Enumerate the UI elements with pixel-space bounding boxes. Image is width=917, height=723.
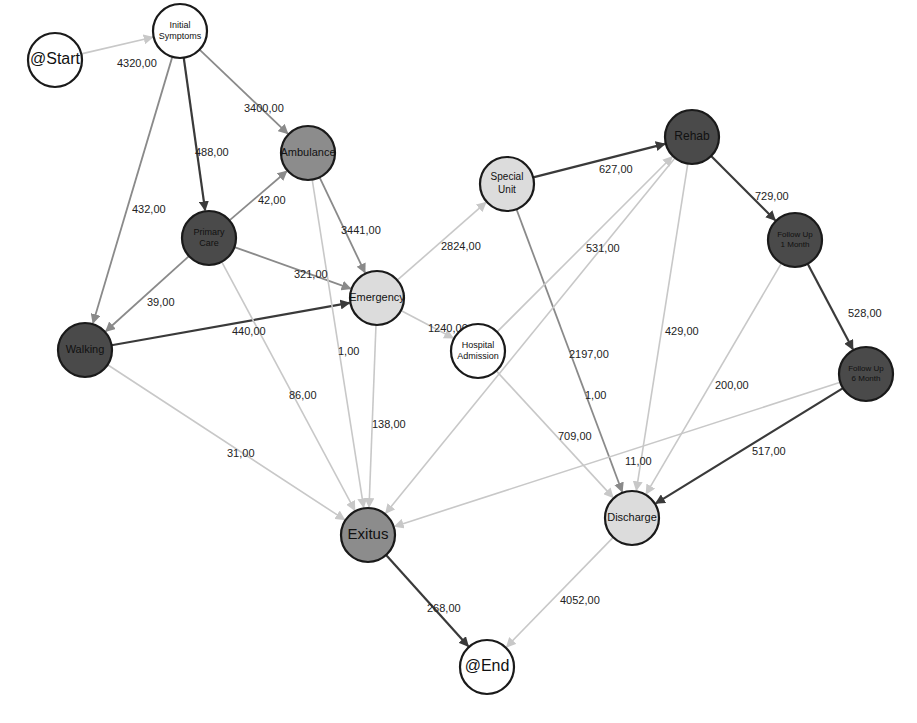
node-end[interactable]: @End: [460, 640, 514, 694]
edge-primary-to-emergency[interactable]: [234, 247, 350, 289]
node-discharge[interactable]: Discharge: [605, 491, 659, 545]
edge-primary-to-exitus[interactable]: [222, 262, 355, 511]
edge-followup6-to-discharge[interactable]: [656, 388, 843, 503]
node-label: Hospital: [462, 340, 495, 350]
edge-label: 321,00: [294, 268, 328, 280]
node-start[interactable]: @Start: [28, 33, 82, 87]
node-label: Follow Up: [777, 230, 813, 239]
edge-label: 11,00: [625, 455, 652, 467]
edge-label: 729,00: [755, 190, 789, 202]
edge-discharge-to-end[interactable]: [507, 537, 614, 647]
node-label: Admission: [457, 351, 499, 361]
edge-label: 31,00: [227, 447, 255, 459]
node-label: Follow Up: [848, 364, 884, 373]
edge-label: 39,00: [147, 296, 175, 308]
node-label: Walking: [66, 343, 105, 355]
edge-label: 4320,00: [117, 57, 157, 69]
edge-label: 432,00: [132, 203, 166, 215]
node-initial[interactable]: InitialSymptoms: [153, 4, 207, 58]
node-label: Primary: [194, 227, 225, 237]
edge-initial-to-primary[interactable]: [184, 58, 205, 211]
edge-label: 517,00: [752, 445, 786, 457]
edge-label: 42,00: [258, 194, 286, 206]
node-label: @End: [465, 657, 510, 674]
node-label: Unit: [498, 184, 516, 195]
node-special[interactable]: SpecialUnit: [480, 157, 534, 211]
edge-label: 531,00: [586, 242, 620, 254]
node-label: @Start: [30, 50, 81, 67]
edge-walking-to-exitus[interactable]: [108, 365, 345, 520]
edge-label: 709,00: [558, 430, 592, 442]
node-walking[interactable]: Walking: [58, 323, 112, 377]
node-primary[interactable]: PrimaryCare: [182, 211, 236, 265]
node-exitus[interactable]: Exitus: [341, 508, 395, 562]
node-followup6[interactable]: Follow Up6 Month: [839, 347, 893, 401]
edge-label: 440,00: [232, 325, 266, 337]
edge-exitus-to-end[interactable]: [386, 555, 468, 646]
edge-start-to-initial[interactable]: [81, 37, 152, 54]
node-label: Ambulance: [280, 146, 335, 158]
node-label: Care: [199, 238, 219, 248]
edge-initial-to-ambulance[interactable]: [200, 50, 288, 134]
edge-label: 3441,00: [341, 224, 381, 236]
node-label: Initial: [169, 20, 190, 30]
process-flow-diagram: 4320,003400,00488,00432,0042,00321,0039,…: [0, 0, 917, 723]
node-label: Discharge: [607, 511, 657, 523]
edge-label: 86,00: [289, 389, 317, 401]
edge-label: 268,00: [427, 602, 461, 614]
edge-label: 4052,00: [560, 594, 600, 606]
edge-label: 429,00: [665, 325, 699, 337]
edge-label: 2197,00: [569, 348, 609, 360]
edge-walking-to-emergency[interactable]: [112, 303, 350, 345]
node-label: 1 Month: [781, 240, 810, 249]
edge-label: 627,00: [599, 163, 633, 175]
edge-rehab-to-followup1[interactable]: [711, 156, 775, 220]
edge-followup1-to-followup6[interactable]: [808, 264, 853, 349]
node-label: Exitus: [348, 525, 389, 542]
edge-label: 2824,00: [441, 240, 481, 252]
node-label: Special: [491, 171, 524, 182]
node-rehab[interactable]: Rehab: [665, 110, 719, 164]
node-label: 6 Month: [852, 374, 881, 383]
edge-label: 200,00: [715, 379, 749, 391]
edge-label: 138,00: [372, 418, 406, 430]
edge-label: 3400,00: [244, 102, 284, 114]
edge-label: 528,00: [848, 307, 882, 319]
edge-primary-to-walking[interactable]: [106, 256, 189, 331]
node-followup1[interactable]: Follow Up1 Month: [768, 213, 822, 267]
node-emergency[interactable]: Emergency: [349, 271, 405, 325]
node-label: Emergency: [349, 291, 405, 303]
node-label: Rehab: [674, 129, 710, 143]
node-label: Symptoms: [159, 31, 202, 41]
edge-label: 488,00: [195, 146, 229, 158]
edge-label: 1,00: [338, 345, 359, 357]
node-hospital[interactable]: HospitalAdmission: [451, 324, 505, 378]
edge-emergency-to-exitus[interactable]: [369, 325, 376, 507]
edge-initial-to-walking[interactable]: [93, 57, 172, 323]
edge-label: 1,00: [585, 389, 606, 401]
node-ambulance[interactable]: Ambulance: [280, 126, 335, 180]
